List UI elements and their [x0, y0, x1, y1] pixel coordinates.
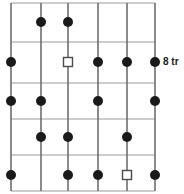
marker-filled-circle — [36, 96, 46, 106]
marker-filled-circle — [93, 170, 103, 180]
marker-filled-circle — [150, 96, 160, 106]
marker-filled-circle — [122, 132, 132, 142]
marker-filled-circle — [6, 170, 16, 180]
marker-filled-circle — [36, 17, 46, 27]
marker-filled-circle — [93, 96, 103, 106]
marker-filled-circle — [150, 57, 160, 67]
marker-filled-circle — [63, 132, 73, 142]
lattice-diagram: 8 tr — [0, 0, 184, 194]
marker-filled-circle — [63, 170, 73, 180]
vertical-gridlines-group — [11, 3, 155, 191]
marker-open-square — [123, 171, 132, 180]
marker-filled-circle — [6, 57, 16, 67]
marker-open-square — [64, 58, 73, 67]
marker-filled-circle — [122, 57, 132, 67]
marker-filled-circle — [63, 17, 73, 27]
marker-filled-circle — [93, 57, 103, 67]
lattice-plot-canvas — [0, 0, 184, 194]
marker-filled-circle — [6, 96, 16, 106]
marker-filled-circle — [36, 132, 46, 142]
horizontal-gridlines-group — [11, 3, 155, 191]
marker-filled-circle — [150, 170, 160, 180]
